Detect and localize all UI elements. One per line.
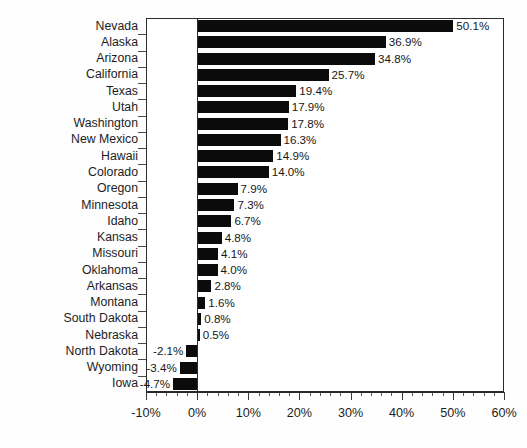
x-tick-label: 10%: [236, 406, 261, 420]
x-tick-label: 0%: [188, 406, 206, 420]
category-tick: [138, 132, 146, 133]
category-tick: [138, 294, 146, 295]
category-tick: [138, 164, 146, 165]
category-tick: [138, 67, 146, 68]
x-tick-label: 20%: [287, 406, 312, 420]
x-tick-label: 60%: [491, 406, 516, 420]
axis-line-bottom: [146, 392, 504, 393]
x-tick-label: 30%: [338, 406, 363, 420]
category-tick: [138, 376, 146, 377]
x-tick-major: [146, 392, 147, 400]
category-tick: [138, 197, 146, 198]
x-tick-major: [351, 392, 352, 400]
category-tick: [138, 343, 146, 344]
x-tick-label: 50%: [440, 406, 465, 420]
x-tick-label: 40%: [389, 406, 414, 420]
category-tick: [138, 34, 146, 35]
category-tick: [138, 51, 146, 52]
category-tick: [138, 213, 146, 214]
category-tick: [138, 83, 146, 84]
x-tick-major: [504, 392, 505, 400]
zero-baseline: [197, 18, 198, 392]
category-tick: [138, 148, 146, 149]
bar-chart: NevadaAlaskaArizonaCaliforniaTexasUtahWa…: [0, 0, 527, 448]
category-tick: [138, 311, 146, 312]
category-tick: [138, 262, 146, 263]
x-tick-major: [402, 392, 403, 400]
category-tick: [138, 181, 146, 182]
x-tick-major: [197, 392, 198, 400]
category-tick: [138, 99, 146, 100]
category-tick: [138, 327, 146, 328]
x-tick-major: [453, 392, 454, 400]
value-axis: -10%0%10%20%30%40%50%60%: [0, 0, 527, 448]
category-tick: [138, 116, 146, 117]
x-tick-label: -10%: [131, 406, 160, 420]
category-tick: [138, 246, 146, 247]
x-tick-major: [248, 392, 249, 400]
category-tick: [138, 359, 146, 360]
x-tick-major: [299, 392, 300, 400]
category-tick: [138, 278, 146, 279]
category-tick: [138, 229, 146, 230]
